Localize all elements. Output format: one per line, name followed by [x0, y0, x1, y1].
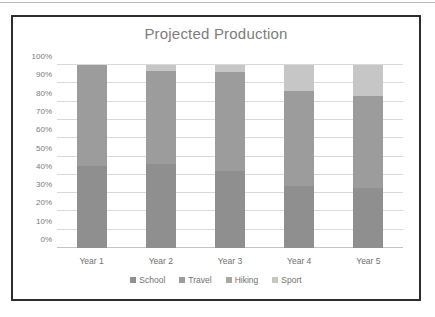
- stacked-bar[interactable]: [353, 65, 383, 248]
- y-axis-tick-label: 70%: [36, 106, 52, 115]
- chart-legend[interactable]: SchoolTravelHikingSport: [13, 275, 419, 285]
- y-axis-tick-label: 50%: [36, 143, 52, 152]
- bar-segment-sport[interactable]: [215, 65, 245, 72]
- bar-segment-sport[interactable]: [284, 65, 314, 91]
- x-axis-tick-label: Year 4: [287, 256, 311, 266]
- y-axis-tick-label: 10%: [36, 216, 52, 225]
- stacked-bar[interactable]: [146, 65, 176, 248]
- bar-group[interactable]: [57, 65, 126, 248]
- bar-segment-school[interactable]: [146, 164, 176, 248]
- x-axis-tick-label: Year 3: [218, 256, 242, 266]
- x-axis-tick-label: Year 2: [149, 256, 173, 266]
- legend-item-label: Hiking: [235, 275, 259, 285]
- y-axis-tick-label: 40%: [36, 161, 52, 170]
- bar-segment-travel[interactable]: [77, 65, 107, 166]
- stacked-bar[interactable]: [284, 65, 314, 248]
- chart-title: Projected Production: [13, 25, 419, 42]
- bar-group[interactable]: [195, 65, 264, 248]
- bar-series-container[interactable]: [57, 65, 403, 248]
- bar-segment-school[interactable]: [77, 166, 107, 248]
- legend-item-label: Sport: [281, 275, 301, 285]
- legend-item-label: School: [139, 275, 165, 285]
- y-axis-tick-label: 90%: [36, 70, 52, 79]
- bar-segment-travel[interactable]: [353, 96, 383, 188]
- bar-segment-sport[interactable]: [353, 65, 383, 96]
- page-scan-rule: [0, 2, 435, 3]
- bar-segment-travel[interactable]: [146, 71, 176, 164]
- y-axis-tick-label: 0%: [40, 235, 52, 244]
- bar-segment-school[interactable]: [353, 188, 383, 248]
- legend-swatch-icon: [226, 277, 232, 283]
- legend-swatch-icon: [179, 277, 185, 283]
- y-axis-tick-label: 80%: [36, 88, 52, 97]
- y-axis-tick-label: 60%: [36, 125, 52, 134]
- legend-item-travel[interactable]: Travel: [179, 275, 211, 285]
- legend-swatch-icon: [272, 277, 278, 283]
- bar-segment-travel[interactable]: [215, 72, 245, 171]
- x-axis-tick-label: Year 1: [79, 256, 103, 266]
- bar-group[interactable]: [334, 65, 403, 248]
- stacked-bar[interactable]: [77, 65, 107, 248]
- bar-group[interactable]: [126, 65, 195, 248]
- legend-item-label: Travel: [188, 275, 211, 285]
- y-axis-tick-label: 100%: [32, 52, 52, 61]
- legend-item-sport[interactable]: Sport: [272, 275, 301, 285]
- legend-item-school[interactable]: School: [130, 275, 165, 285]
- legend-swatch-icon: [130, 277, 136, 283]
- bar-segment-school[interactable]: [215, 171, 245, 248]
- bar-segment-sport[interactable]: [146, 65, 176, 70]
- bar-segment-travel[interactable]: [284, 91, 314, 186]
- plot-area[interactable]: 0%10%20%30%40%50%60%70%80%90%100% Year 1…: [57, 65, 403, 248]
- bar-segment-school[interactable]: [284, 186, 314, 248]
- chart-area[interactable]: Projected Production 0%10%20%30%40%50%60…: [13, 17, 419, 299]
- bar-group[interactable]: [265, 65, 334, 248]
- chart-frame: Projected Production 0%10%20%30%40%50%60…: [11, 15, 421, 301]
- x-axis-tick-label: Year 5: [356, 256, 380, 266]
- y-axis-tick-label: 30%: [36, 180, 52, 189]
- y-axis-tick-label: 20%: [36, 198, 52, 207]
- stacked-bar[interactable]: [215, 65, 245, 248]
- legend-item-hiking[interactable]: Hiking: [226, 275, 259, 285]
